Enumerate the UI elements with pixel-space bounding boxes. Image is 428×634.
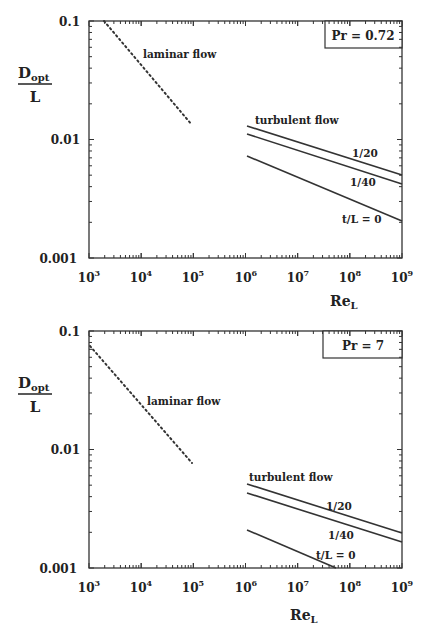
svg-text:103: 103 <box>78 578 101 595</box>
figure: Pr = 0.72 0.1 0.01 0.001 Dopt L 103 104 … <box>0 0 428 634</box>
pr-label: Pr = 0.72 <box>332 29 395 43</box>
y-tick-label: 0.1 <box>59 15 80 29</box>
label-t-l-0: t/L = 0 <box>316 549 355 561</box>
label-1-40: 1/40 <box>328 529 354 541</box>
y-axis-label: Dopt L <box>18 374 52 416</box>
y-label-denominator: L <box>30 398 41 416</box>
axis-ticks <box>89 331 402 568</box>
laminar-flow-line <box>104 21 192 125</box>
turbulent-1-20-line <box>247 484 402 533</box>
y-tick-label: 0.01 <box>51 443 80 457</box>
turbulent-t-l-0-line <box>247 156 402 221</box>
x-tick-labels: 103 104 105 106 107 108 109 <box>78 578 414 595</box>
y-tick-label: 0.001 <box>39 252 77 266</box>
svg-text:107: 107 <box>287 578 309 595</box>
x-axis-label: ReL <box>290 607 318 625</box>
turbulent-1-40-line <box>247 493 402 542</box>
x-axis-label: ReL <box>330 293 358 311</box>
label-1-20: 1/20 <box>352 147 378 159</box>
label-1-40: 1/40 <box>350 176 376 188</box>
svg-text:108: 108 <box>339 268 362 285</box>
svg-text:109: 109 <box>391 578 414 595</box>
turbulent-flow-label: turbulent flow <box>249 471 333 483</box>
x-tick-labels: 103 104 105 106 107 108 109 <box>78 268 414 285</box>
svg-text:104: 104 <box>130 268 153 285</box>
svg-text:104: 104 <box>130 578 153 595</box>
svg-text:108: 108 <box>339 578 362 595</box>
label-t-l-0: t/L = 0 <box>342 213 381 225</box>
svg-text:105: 105 <box>182 268 204 285</box>
svg-text:105: 105 <box>182 578 204 595</box>
svg-text:109: 109 <box>391 268 414 285</box>
turbulent-flow-label: turbulent flow <box>255 114 339 126</box>
turbulent-1-20-line <box>247 126 402 175</box>
svg-text:106: 106 <box>235 578 258 595</box>
plot-frame <box>89 331 402 568</box>
chart-top: Pr = 0.72 0.1 0.01 0.001 Dopt L 103 104 … <box>18 15 414 311</box>
y-label-numerator: Dopt <box>18 374 50 393</box>
y-tick-label: 0.1 <box>59 325 80 339</box>
y-tick-label: 0.01 <box>51 133 80 147</box>
turbulent-1-40-line <box>247 134 402 184</box>
pr-label: Pr = 7 <box>342 339 384 353</box>
label-1-20: 1/20 <box>326 500 352 512</box>
y-tick-label: 0.001 <box>39 562 77 576</box>
svg-text:106: 106 <box>235 268 258 285</box>
svg-text:103: 103 <box>78 268 101 285</box>
y-label-denominator: L <box>30 88 41 106</box>
chart-bottom: Pr = 7 0.1 0.01 0.001 Dopt L 103 104 105… <box>18 325 414 625</box>
laminar-flow-label: laminar flow <box>143 48 217 60</box>
svg-text:107: 107 <box>287 268 309 285</box>
y-label-numerator: Dopt <box>18 64 50 83</box>
laminar-flow-label: laminar flow <box>147 395 221 407</box>
y-axis-label: Dopt L <box>18 64 52 106</box>
